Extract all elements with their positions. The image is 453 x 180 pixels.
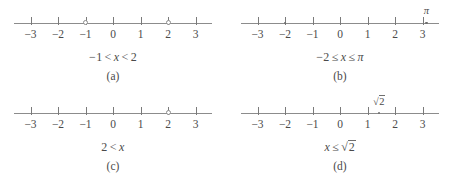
panel-sublabel-a: (a) (0, 70, 226, 83)
expr-left-value: 2 (101, 140, 107, 154)
axis-tick (258, 17, 259, 25)
axis-tick (258, 107, 259, 115)
axis-tick-label: 0 (325, 118, 355, 131)
axis-tick-label: 2 (380, 118, 410, 131)
axis-tick-label: 2 (380, 28, 410, 41)
expr-right-value: 2 (131, 50, 137, 64)
axis-tick-label: 3 (181, 118, 211, 131)
open-endpoint-2 (166, 20, 171, 25)
axis-tick (31, 17, 32, 25)
axis-tick-label: −1 (71, 28, 101, 41)
panel-sublabel-c: (c) (0, 160, 226, 173)
axis-tick-label: −3 (16, 118, 46, 131)
expr-left-relation: < (108, 140, 119, 154)
closed-endpoint-sqrt2 (378, 112, 381, 115)
marker-label: π (406, 5, 446, 17)
axis-tick-label: −2 (43, 118, 73, 131)
expression-c: 2<x (0, 140, 226, 154)
axis-tick (395, 107, 396, 115)
axis-tick (196, 107, 197, 115)
axis-tick (196, 17, 197, 25)
axis-tick-label: 2 (153, 118, 183, 131)
panel-c: −3−2−10123 2<x (c) (0, 90, 226, 180)
sqrt-symbol: √2 (373, 95, 385, 108)
axis-tick-label: 1 (353, 118, 383, 131)
expression-a: −1<x<2 (0, 50, 226, 64)
open-endpoint-2 (166, 110, 171, 115)
expr-variable: x (119, 140, 125, 154)
axis-tick-label: −3 (243, 28, 273, 41)
expression-b: −2≤x≤π (227, 50, 453, 64)
sqrt-radicand: 2 (348, 140, 355, 153)
sqrt-radicand: 2 (379, 95, 385, 107)
axis-tick (423, 17, 424, 25)
axis-tick-label: 3 (181, 28, 211, 41)
panel-d: −3−2−10123 √2 x≤√2 (d) (227, 90, 453, 180)
number-line-b: −3−2−10123 π (241, 20, 439, 50)
axis-tick (31, 107, 32, 115)
axis-tick (113, 107, 114, 115)
axis-tick-label: −2 (270, 118, 300, 131)
expression-d: x≤√2 (227, 140, 453, 154)
axis-tick-label: −1 (298, 28, 328, 41)
expr-left-relation: ≤ (330, 140, 341, 154)
axis-tick-label: −1 (298, 118, 328, 131)
panel-sublabel-b: (b) (227, 70, 453, 83)
axis-tick-label: 0 (325, 28, 355, 41)
axis-tick (313, 107, 314, 115)
axis-tick (368, 17, 369, 25)
axis-tick-label: −1 (71, 118, 101, 131)
axis-tick-label: −2 (270, 28, 300, 41)
number-line-c: −3−2−10123 (14, 110, 212, 140)
panel-b: −3−2−10123 π −2≤x≤π (b) (227, 0, 453, 90)
expr-right-value: π (357, 50, 363, 64)
expr-left-value: −1 (89, 50, 103, 64)
axis-tick-label: 0 (98, 118, 128, 131)
axis-tick (368, 107, 369, 115)
axis-tick (340, 107, 341, 115)
number-line-d: −3−2−10123 √2 (241, 110, 439, 140)
axis-tick-label: 3 (408, 118, 438, 131)
expr-right-relation: ≤ (346, 50, 357, 64)
axis-tick (58, 17, 59, 25)
axis-tick (113, 17, 114, 25)
axis-tick (423, 107, 424, 115)
number-line-figure: −3−2−10123 −1<x<2 (a) −3−2−10123 π −2≤x≤… (0, 0, 453, 180)
expr-right-relation: < (119, 50, 130, 64)
axis-tick-label: 1 (126, 28, 156, 41)
axis-tick (340, 17, 341, 25)
open-endpoint-minus-1 (83, 20, 88, 25)
axis-tick (86, 107, 87, 115)
axis-tick (313, 17, 314, 25)
axis-tick (141, 17, 142, 25)
axis-tick (285, 107, 286, 115)
axis-tick-label: 1 (126, 118, 156, 131)
panel-sublabel-d: (d) (227, 160, 453, 173)
axis-tick (58, 107, 59, 115)
axis-tick-label: 0 (98, 28, 128, 41)
expr-left-relation: ≤ (330, 50, 341, 64)
number-line-a: −3−2−10123 (14, 20, 212, 50)
axis-tick-label: 3 (408, 28, 438, 41)
closed-endpoint-pi (425, 22, 428, 25)
sqrt-symbol: √2 (341, 140, 355, 154)
marker-label: √2 (359, 95, 399, 108)
panel-a: −3−2−10123 −1<x<2 (a) (0, 0, 226, 90)
axis-tick-label: 1 (353, 28, 383, 41)
axis-tick-label: −3 (16, 28, 46, 41)
axis-tick (395, 17, 396, 25)
axis-tick-label: −2 (43, 28, 73, 41)
axis-tick-label: 2 (153, 28, 183, 41)
expr-left-relation: < (103, 50, 114, 64)
axis-tick (141, 107, 142, 115)
expr-left-value: −2 (316, 50, 330, 64)
axis-tick-label: −3 (243, 118, 273, 131)
